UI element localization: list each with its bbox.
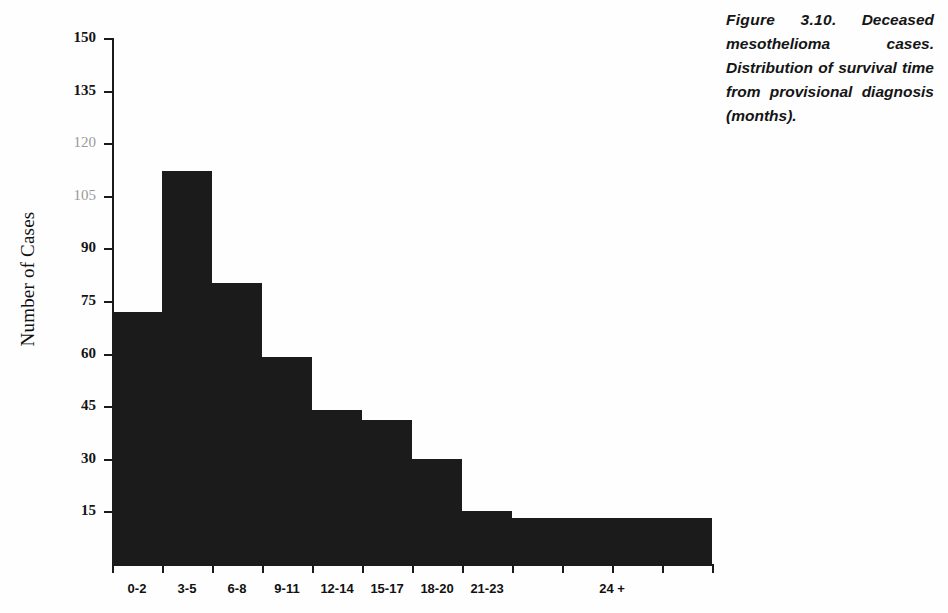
y-tick-label: 30	[50, 450, 96, 467]
y-tick-label: 60	[50, 345, 96, 362]
bar	[312, 410, 362, 564]
bar	[512, 518, 712, 564]
bar	[112, 312, 162, 564]
bar	[212, 283, 262, 564]
bar	[412, 459, 462, 564]
x-tick-label: 3-5	[178, 581, 197, 596]
y-tick-mark	[104, 91, 113, 93]
bar	[462, 511, 512, 564]
plot-area: 150135120105907560453015 0-23-56-89-1112…	[112, 38, 712, 566]
y-axis-title: Number of Cases	[17, 169, 39, 389]
x-tick-label: 24 +	[599, 581, 625, 596]
figure-container: Number of Cases 150135120105907560453015…	[0, 0, 948, 613]
bar	[162, 171, 212, 564]
y-tick-label: 105	[50, 187, 96, 204]
x-tick-mark	[712, 564, 714, 573]
x-tick-label: 0-2	[128, 581, 147, 596]
x-tick-mark	[662, 564, 664, 573]
y-tick-label: 45	[50, 397, 96, 414]
x-tick-mark	[512, 564, 514, 573]
y-tick-mark	[104, 143, 113, 145]
x-tick-label: 15-17	[370, 581, 403, 596]
y-tick-label: 135	[50, 82, 96, 99]
y-tick-label: 15	[50, 502, 96, 519]
x-tick-label: 6-8	[228, 581, 247, 596]
x-tick-mark	[312, 564, 314, 573]
x-tick-mark	[412, 564, 414, 573]
bar	[262, 357, 312, 564]
y-tick-mark	[104, 38, 113, 40]
y-tick-mark	[104, 196, 113, 198]
figure-caption-label: Figure 3.10.	[726, 11, 837, 28]
x-tick-label: 21-23	[470, 581, 503, 596]
x-tick-mark	[562, 564, 564, 573]
x-tick-mark	[362, 564, 364, 573]
x-tick-mark	[112, 564, 114, 573]
y-tick-label: 150	[50, 29, 96, 46]
x-tick-label: 12-14	[320, 581, 353, 596]
bar	[362, 420, 412, 564]
y-tick-label: 75	[50, 292, 96, 309]
x-tick-mark	[612, 564, 614, 573]
x-tick-mark	[162, 564, 164, 573]
y-tick-mark	[104, 248, 113, 250]
y-tick-label: 90	[50, 239, 96, 256]
figure-caption: Figure 3.10. Deceased mesothelioma cases…	[726, 8, 934, 128]
x-tick-mark	[212, 564, 214, 573]
x-tick-label: 18-20	[420, 581, 453, 596]
y-tick-mark	[104, 301, 113, 303]
x-tick-label: 9-11	[274, 581, 299, 596]
x-tick-mark	[262, 564, 264, 573]
y-tick-label: 120	[50, 134, 96, 151]
x-tick-mark	[462, 564, 464, 573]
